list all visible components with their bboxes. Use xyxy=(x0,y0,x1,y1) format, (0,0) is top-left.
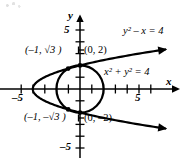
x-tick-pos5-text: 5 xyxy=(135,91,141,103)
point-label-upper-left: (–1, √3 ) xyxy=(25,45,61,56)
x-tick-neg5-text: –5 xyxy=(12,91,23,103)
y-axis-name: y xyxy=(68,10,73,21)
point-label-lower-left: (–1, –√3 ) xyxy=(24,112,66,123)
x-axis xyxy=(0,85,180,93)
point-label-top: (0, 2) xyxy=(84,45,107,56)
y-tick-neg5-text: –5 xyxy=(60,140,71,152)
equation-label-parabola: y² – x = 4 xyxy=(123,26,164,37)
point-top-text: (0, 2) xyxy=(84,44,107,55)
x-axis-name-text: x xyxy=(166,75,172,87)
equation-circle-text: x² + y² = 4 xyxy=(104,66,150,77)
parabola-arrowhead xyxy=(158,123,168,131)
point-upper-left-text: (–1, √3 ) xyxy=(25,44,61,55)
graph-figure: y² – x = 4 x² + y² = 4 (–1, √3 ) (–1, –√… xyxy=(0,0,181,158)
x-axis-name: x xyxy=(166,76,172,87)
y-tick-label-neg5: –5 xyxy=(60,141,71,152)
y-tick-pos5-text: 5 xyxy=(64,23,70,35)
y-tick-label-pos5: 5 xyxy=(64,24,70,35)
equation-parabola-text: y² – x = 4 xyxy=(123,25,164,36)
equation-label-circle: x² + y² = 4 xyxy=(104,67,150,78)
point-lower-left-text: (–1, –√3 ) xyxy=(24,111,66,122)
x-tick-label-neg5: –5 xyxy=(12,92,23,103)
x-tick-label-pos5: 5 xyxy=(135,92,141,103)
parabola-arrowhead xyxy=(158,46,168,54)
coordinate-plane-svg xyxy=(0,0,181,158)
point-label-bottom: (0, –2) xyxy=(84,113,112,124)
y-axis-name-text: y xyxy=(68,9,73,21)
point-bottom-text: (0, –2) xyxy=(84,112,112,123)
